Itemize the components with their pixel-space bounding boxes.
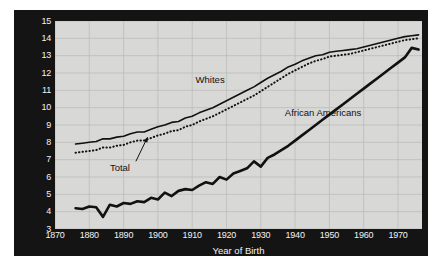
x-tick-label: 1970	[388, 231, 407, 240]
x-tick-label: 1870	[45, 231, 64, 240]
x-tick-label: 1890	[114, 231, 133, 240]
y-tick-label: 10	[25, 103, 51, 112]
y-tick-label: 9	[25, 121, 51, 130]
annotation-african-americans: African Americans	[285, 108, 362, 118]
series-line-whites	[76, 35, 419, 144]
y-tick-label: 14	[25, 34, 51, 43]
x-tick-label: 1950	[320, 231, 339, 240]
plot-area: WhitesAfrican AmericansTotal	[55, 21, 422, 229]
x-axis-title: Year of Birth	[55, 246, 422, 256]
y-axis-ticks: 1514131211109876543	[23, 21, 51, 229]
x-tick-label: 1920	[217, 231, 236, 240]
y-tick-label: 5	[25, 190, 51, 199]
x-tick-label: 1940	[285, 231, 304, 240]
x-tick-label: 1910	[183, 231, 202, 240]
x-tick-label: 1930	[251, 231, 270, 240]
annotation-total: Total	[110, 163, 130, 173]
y-tick-label: 15	[25, 17, 51, 26]
y-tick-label: 13	[25, 51, 51, 60]
y-tick-label: 4	[25, 207, 51, 216]
annotation-whites: Whites	[196, 75, 225, 85]
y-tick-label: 12	[25, 69, 51, 78]
series-lines	[76, 35, 419, 217]
gridlines	[55, 21, 422, 229]
y-tick-label: 6	[25, 173, 51, 182]
plot-svg	[55, 21, 422, 229]
x-tick-label: 1960	[354, 231, 373, 240]
figure: Years of Schooling at Age 35 Years 15141…	[0, 0, 443, 268]
y-tick-label: 8	[25, 138, 51, 147]
x-tick-label: 1900	[148, 231, 167, 240]
x-tick-label: 1880	[80, 231, 99, 240]
y-tick-label: 7	[25, 155, 51, 164]
x-axis-ticks: 1870188018901900191019201930194019501960…	[55, 231, 435, 243]
chart-panel: Years of Schooling at Age 35 Years 15141…	[14, 10, 428, 256]
y-tick-label: 11	[25, 86, 51, 95]
